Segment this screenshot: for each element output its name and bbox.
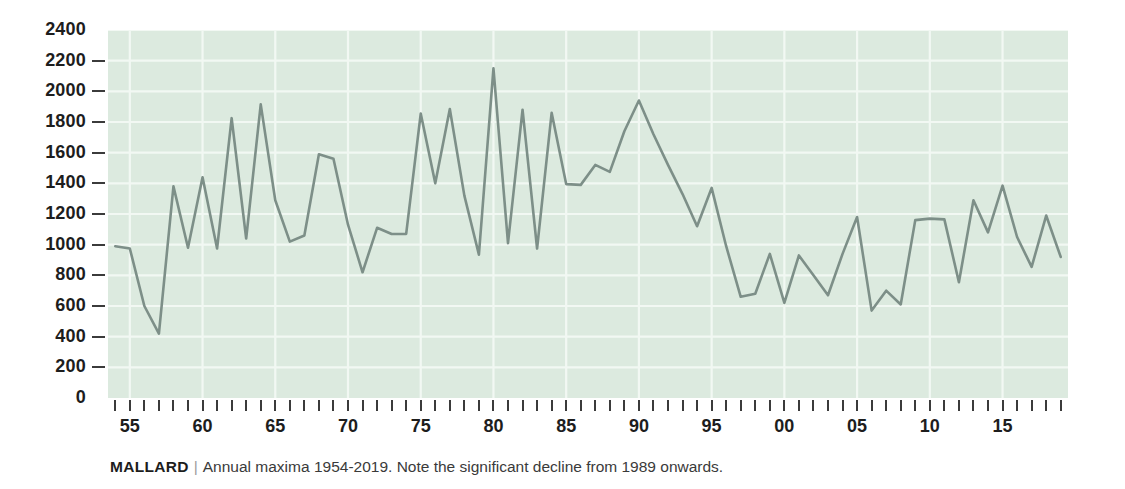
x-tick-mark bbox=[216, 400, 218, 411]
x-tick-mark bbox=[347, 400, 349, 411]
y-tick-label: 800 bbox=[55, 264, 86, 285]
x-tick-mark bbox=[449, 400, 451, 411]
y-tick-label: 1600 bbox=[45, 142, 86, 163]
x-tick-label: 90 bbox=[629, 416, 649, 437]
y-tick-mark bbox=[92, 366, 105, 368]
x-tick-mark bbox=[900, 400, 902, 411]
x-tick-mark bbox=[623, 400, 625, 411]
y-tick-label: 2000 bbox=[45, 80, 86, 101]
x-tick-mark bbox=[274, 400, 276, 411]
x-tick-mark bbox=[245, 400, 247, 411]
x-tick-mark bbox=[172, 400, 174, 411]
x-tick-mark bbox=[943, 400, 945, 411]
x-tick-mark bbox=[711, 400, 713, 411]
x-tick-label: 95 bbox=[702, 416, 722, 437]
x-tick-mark bbox=[725, 400, 727, 411]
y-tick-label: 2200 bbox=[45, 50, 86, 71]
y-tick-mark bbox=[92, 152, 105, 154]
x-tick-mark bbox=[856, 400, 858, 411]
x-tick-mark bbox=[1045, 400, 1047, 411]
x-tick-label: 70 bbox=[338, 416, 358, 437]
x-tick-mark bbox=[478, 400, 480, 411]
y-tick-label: 2400 bbox=[45, 19, 86, 40]
x-tick-mark bbox=[129, 400, 131, 411]
x-tick-label: 55 bbox=[120, 416, 140, 437]
chart-figure: 0200 400 600 800 1000 1200 1400 1600 180… bbox=[0, 0, 1125, 489]
x-tick-mark bbox=[391, 400, 393, 411]
x-tick-mark bbox=[871, 400, 873, 411]
x-tick-label: 15 bbox=[993, 416, 1013, 437]
x-tick-mark bbox=[987, 400, 989, 411]
x-tick-mark bbox=[958, 400, 960, 411]
x-tick-mark bbox=[362, 400, 364, 411]
x-tick-mark bbox=[652, 400, 654, 411]
y-tick-label: 200 bbox=[55, 356, 86, 377]
x-tick-mark bbox=[972, 400, 974, 411]
x-tick-mark bbox=[682, 400, 684, 411]
x-tick-mark bbox=[754, 400, 756, 411]
x-tick-mark bbox=[318, 400, 320, 411]
x-tick-mark bbox=[812, 400, 814, 411]
y-tick-mark bbox=[92, 182, 105, 184]
x-tick-mark bbox=[114, 400, 116, 411]
x-tick-mark bbox=[798, 400, 800, 411]
x-tick-mark bbox=[202, 400, 204, 411]
x-tick-mark bbox=[1031, 400, 1033, 411]
y-tick-mark bbox=[92, 90, 105, 92]
x-tick-mark bbox=[667, 400, 669, 411]
y-tick-label: 0 bbox=[76, 387, 86, 408]
x-tick-mark bbox=[303, 400, 305, 411]
x-tick-mark bbox=[507, 400, 509, 411]
x-tick-mark bbox=[420, 400, 422, 411]
x-tick-mark bbox=[143, 400, 145, 411]
x-tick-label: 75 bbox=[411, 416, 431, 437]
x-tick-mark bbox=[696, 400, 698, 411]
x-tick-mark bbox=[492, 400, 494, 411]
x-tick-mark bbox=[536, 400, 538, 411]
x-tick-mark bbox=[332, 400, 334, 411]
x-tick-label: 00 bbox=[774, 416, 794, 437]
y-tick-mark bbox=[92, 274, 105, 276]
x-tick-mark bbox=[609, 400, 611, 411]
x-tick-mark bbox=[769, 400, 771, 411]
y-tick-mark bbox=[92, 60, 105, 62]
x-tick-mark bbox=[405, 400, 407, 411]
y-tick-label: 1000 bbox=[45, 234, 86, 255]
x-tick-mark bbox=[187, 400, 189, 411]
x-tick-mark bbox=[522, 400, 524, 411]
x-tick-mark bbox=[231, 400, 233, 411]
x-tick-mark bbox=[551, 400, 553, 411]
x-tick-mark bbox=[929, 400, 931, 411]
x-tick-mark bbox=[1002, 400, 1004, 411]
x-tick-label: 60 bbox=[193, 416, 213, 437]
x-tick-mark bbox=[565, 400, 567, 411]
x-tick-label: 80 bbox=[483, 416, 503, 437]
y-tick-mark bbox=[92, 336, 105, 338]
y-tick-label: 1400 bbox=[45, 172, 86, 193]
series-line-mallard bbox=[108, 30, 1068, 398]
caption-text: Annual maxima 1954-2019. Note the signif… bbox=[203, 458, 723, 475]
x-tick-mark bbox=[434, 400, 436, 411]
caption-title: MALLARD bbox=[110, 458, 189, 475]
x-tick-mark bbox=[289, 400, 291, 411]
x-tick-mark bbox=[1016, 400, 1018, 411]
x-axis: 55606570758085909500051015 bbox=[108, 398, 1068, 446]
x-tick-mark bbox=[783, 400, 785, 411]
x-tick-mark bbox=[158, 400, 160, 411]
x-tick-mark bbox=[260, 400, 262, 411]
x-tick-mark bbox=[376, 400, 378, 411]
x-tick-mark bbox=[914, 400, 916, 411]
x-tick-mark bbox=[638, 400, 640, 411]
x-tick-mark bbox=[842, 400, 844, 411]
y-tick-mark bbox=[92, 121, 105, 123]
y-tick-label: 1800 bbox=[45, 111, 86, 132]
caption: MALLARD|Annual maxima 1954-2019. Note th… bbox=[110, 457, 723, 477]
y-tick-label: 400 bbox=[55, 326, 86, 347]
x-tick-label: 05 bbox=[847, 416, 867, 437]
x-tick-mark bbox=[740, 400, 742, 411]
x-tick-mark bbox=[463, 400, 465, 411]
x-tick-mark bbox=[594, 400, 596, 411]
y-tick-label: 1200 bbox=[45, 203, 86, 224]
y-tick-mark bbox=[92, 244, 105, 246]
y-axis: 0200 400 600 800 1000 1200 1400 1600 180… bbox=[0, 0, 108, 430]
